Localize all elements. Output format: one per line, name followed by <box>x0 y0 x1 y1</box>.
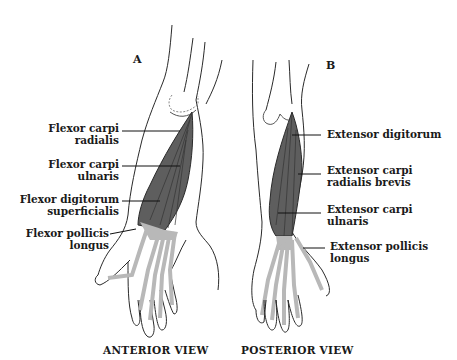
label-line: longus <box>26 239 109 251</box>
panel-letter-a: A <box>133 53 142 66</box>
posterior-arm <box>252 60 330 332</box>
view-title-posterior: POSTERIOR VIEW <box>241 344 354 356</box>
label-extensor-carpi-ulnaris: Extensor carpi ulnaris <box>327 203 413 227</box>
label-extensor-pollicis-longus: Extensor pollicis longus <box>330 240 428 264</box>
label-line: radialis <box>48 134 119 146</box>
label-line: Flexor carpi <box>48 122 119 134</box>
label-line: radialis brevis <box>327 176 413 188</box>
forearm-muscles-figure: A B Flexor carpi radialis Flexor carpi u… <box>0 0 457 360</box>
label-extensor-digitorum: Extensor digitorum <box>327 128 441 140</box>
label-flexor-carpi-ulnaris: Flexor carpi ulnaris <box>48 158 119 182</box>
label-flexor-pollicis-longus: Flexor pollicis longus <box>26 227 109 251</box>
label-line: Extensor carpi <box>327 203 413 215</box>
label-line: superficialis <box>20 205 119 217</box>
label-flexor-digitorum-superficialis: Flexor digitorum superficialis <box>20 193 119 217</box>
label-flexor-carpi-radialis: Flexor carpi radialis <box>48 122 119 146</box>
panel-letter-b: B <box>326 59 335 72</box>
label-line: Flexor digitorum <box>20 193 119 205</box>
label-line: Extensor carpi <box>327 164 413 176</box>
label-line: ulnaris <box>327 215 413 227</box>
label-line: Extensor pollicis <box>330 240 428 252</box>
label-line: ulnaris <box>48 170 119 182</box>
label-line: longus <box>330 252 428 264</box>
label-line: Flexor carpi <box>48 158 119 170</box>
label-extensor-carpi-radialis-brevis: Extensor carpi radialis brevis <box>327 164 413 188</box>
view-title-anterior: ANTERIOR VIEW <box>103 344 208 356</box>
label-line: Flexor pollicis <box>26 227 109 239</box>
label-line: Extensor digitorum <box>327 128 441 140</box>
